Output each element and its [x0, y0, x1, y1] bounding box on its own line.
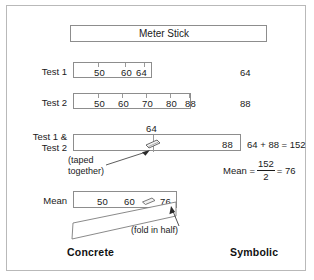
test2-right-value: 88: [240, 98, 251, 109]
fraction-denominator: 2: [257, 172, 275, 182]
test2-tick-label-88: 88: [185, 98, 196, 109]
taped-note-line1: (taped: [68, 155, 94, 167]
test1-tick-label-50: 50: [94, 67, 105, 78]
taped-note-arrow-icon: [104, 148, 154, 168]
equation-mean-fraction: 1522: [257, 159, 275, 182]
row-label-combined-line1: Test 1 &: [15, 131, 67, 142]
test1-tick-label-60: 60: [121, 67, 132, 78]
figure-canvas: Meter Stick Test 1 50 60 64 64 Test 2 50…: [0, 0, 314, 280]
equation-sum: 64 + 88 = 152: [247, 139, 306, 150]
test2-tick-label-50: 50: [94, 98, 105, 109]
test1-right-value: 64: [240, 67, 251, 78]
test2-tick-label-70: 70: [142, 98, 153, 109]
label-symbolic: Symbolic: [230, 246, 278, 258]
fold-note-arrow-icon: [166, 204, 188, 228]
equation-mean-label: Mean =: [223, 165, 255, 176]
label-concrete: Concrete: [67, 246, 114, 258]
taped-note-line2: together): [68, 166, 104, 178]
row-label-combined-line2: Test 2: [15, 142, 67, 153]
equation-mean: Mean =1522= 76: [223, 160, 296, 183]
row-label-test1: Test 1: [22, 66, 67, 77]
test1-tick-label-64: 64: [136, 67, 147, 78]
row-label-test2: Test 2: [22, 97, 67, 108]
fraction-numerator: 152: [257, 159, 275, 169]
test2-tick-label-60: 60: [118, 98, 129, 109]
combined-tick-label-88: 88: [222, 139, 233, 150]
equation-mean-result: = 76: [277, 165, 296, 176]
test2-tick-label-80: 80: [166, 98, 177, 109]
combined-tick-label-64: 64: [146, 123, 157, 134]
meter-stick-label: Meter Stick: [139, 28, 189, 39]
